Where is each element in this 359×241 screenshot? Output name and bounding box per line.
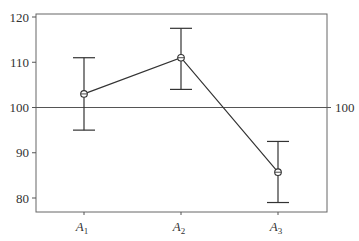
x-tick-label: A3: [269, 219, 283, 236]
x-tick-label: A2: [172, 219, 185, 236]
y-tick-label: 90: [16, 145, 29, 160]
x-tick-label: A1: [75, 219, 88, 236]
reference-line-label: 100: [335, 100, 355, 115]
y-tick-label: 100: [10, 100, 30, 115]
y-tick-label: 120: [10, 10, 30, 25]
y-tick-label: 80: [16, 191, 29, 206]
y-tick-label: 110: [10, 55, 29, 70]
error-bar-chart: 8090100110120 100 A1A2A3: [0, 0, 359, 241]
